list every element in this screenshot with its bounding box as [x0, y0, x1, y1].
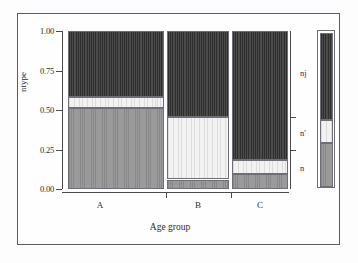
mosaic-cell-B-n[interactable] [167, 180, 230, 190]
right-tick-label-n: n [300, 163, 304, 173]
mosaic-column-A[interactable] [68, 31, 164, 189]
x-tick-label-C: C [246, 200, 274, 210]
mosaic-column-B[interactable] [167, 31, 230, 189]
y-tick-label-0-25: 0.25 [40, 145, 54, 155]
y-tick-mark [56, 31, 62, 32]
x-tick-mark [231, 192, 232, 198]
y-tick-mark [56, 110, 62, 111]
legend-segment-nj[interactable] [321, 34, 332, 119]
mosaic-cell-C-nj[interactable] [232, 31, 288, 160]
mosaic-cell-C-nprime[interactable] [232, 160, 288, 174]
x-tick-label-B: B [184, 200, 212, 210]
right-tick-mark [290, 117, 296, 118]
mosaic-cell-C-n[interactable] [232, 174, 288, 189]
figure-canvas: 1.00 0.75 0.50 0.25 0.00 ntype A [0, 0, 358, 263]
legend-segment-n[interactable] [321, 144, 332, 186]
mosaic-cell-B-nprime[interactable] [167, 117, 230, 179]
mosaic-cell-A-n[interactable] [68, 108, 164, 189]
mosaic-plot-area [68, 31, 288, 189]
y-tick-label-0-00: 0.00 [40, 184, 54, 194]
y-tick-mark [56, 71, 62, 72]
mosaic-cell-A-nprime[interactable] [68, 97, 164, 107]
y-tick-mark [56, 150, 62, 151]
marginal-legend-strip[interactable] [317, 30, 335, 188]
y-tick-label-0-50: 0.50 [40, 105, 54, 115]
legend-segment-nprime[interactable] [321, 121, 332, 143]
x-axis-line [62, 192, 289, 193]
y-axis-line [62, 31, 63, 189]
mosaic-column-C[interactable] [232, 31, 288, 189]
x-tick-label-A: A [86, 200, 114, 210]
right-tick-label-nj: nj [300, 68, 307, 78]
x-axis-title: Age group [0, 222, 340, 232]
x-tick-mark [166, 192, 167, 198]
y-tick-label-0-75: 0.75 [40, 66, 54, 76]
y-tick-mark [56, 189, 62, 190]
y-tick-label-1-00: 1.00 [40, 26, 54, 36]
mosaic-cell-B-nj[interactable] [167, 31, 230, 117]
right-tick-mark [290, 150, 296, 151]
right-axis-line [290, 31, 291, 189]
y-axis-title: ntype [18, 72, 28, 92]
right-tick-label-nprime: n' [300, 128, 306, 138]
mosaic-cell-A-nj[interactable] [68, 31, 164, 97]
